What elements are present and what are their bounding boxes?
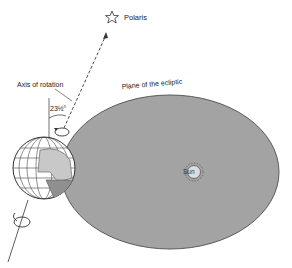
diagram-canvas	[0, 0, 292, 268]
rotation-arrow-top-icon	[54, 128, 69, 136]
tilt-angle-arc	[49, 115, 66, 118]
polaris-star-icon	[106, 11, 119, 23]
polaris-label: Polaris	[124, 14, 147, 22]
axis-label-leader	[55, 89, 72, 101]
arrowhead-icon	[103, 32, 108, 39]
sun-label: Sun	[183, 169, 195, 176]
tilt-angle-label: 23½°	[50, 105, 66, 112]
axis-below-solid	[8, 200, 28, 262]
ecliptic-plane	[61, 95, 279, 249]
axis-of-rotation-label: Axis of rotation	[17, 81, 63, 88]
